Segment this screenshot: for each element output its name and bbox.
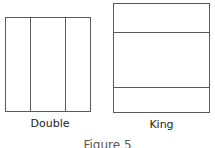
king-bed-divider-1 xyxy=(114,32,209,33)
double-bed-divider-2 xyxy=(65,18,66,111)
king-bed-label: King xyxy=(113,118,210,131)
double-bed-label: Double xyxy=(0,117,100,130)
king-bed-divider-2 xyxy=(114,87,209,88)
king-bed-outline xyxy=(113,3,210,113)
double-bed-divider-1 xyxy=(30,18,31,111)
figure-caption: Figure 5 xyxy=(0,138,215,148)
double-bed-outline xyxy=(5,17,91,112)
bed-size-diagram: Double King Figure 5 xyxy=(0,0,215,148)
